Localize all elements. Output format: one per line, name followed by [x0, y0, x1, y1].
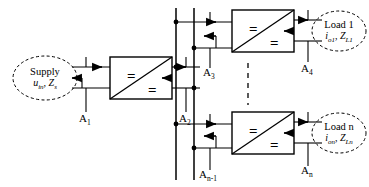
- supply-title: Supply: [30, 66, 60, 78]
- load-1-params: io1, ZL1: [325, 30, 353, 45]
- converter-load-1-eq-top: =: [249, 22, 258, 37]
- load-n-label: Load n ion, ZLn: [313, 122, 365, 146]
- converter-load-n-eq-bottom: =: [270, 138, 279, 153]
- converter-input-eq-bottom: =: [148, 83, 157, 98]
- load-n-params: ion, ZLn: [325, 132, 353, 147]
- port-label-an: An: [301, 164, 313, 179]
- bus-node: [174, 65, 179, 70]
- diagram-canvas: = = = = = = Supply uin, Zs Load 1 io1, Z…: [0, 0, 369, 187]
- converter-input-eq-top: =: [127, 69, 136, 84]
- supply-label: Supply uin, Zs: [15, 66, 75, 92]
- load-1-label: Load 1 io1, ZL1: [313, 20, 365, 44]
- port-label-a3: A3: [203, 66, 215, 81]
- port-label-a2: A2: [179, 112, 191, 127]
- port-label-a4: A4: [301, 62, 313, 77]
- load-1-title: Load 1: [324, 19, 353, 31]
- converter-load-1-eq-bottom: =: [270, 36, 279, 51]
- supply-params: uin, Zs: [33, 77, 57, 92]
- load-n-title: Load n: [324, 121, 353, 133]
- bus-node: [192, 86, 197, 91]
- port-label-a1: A1: [79, 112, 91, 127]
- converter-load-n-eq-top: =: [249, 124, 258, 139]
- port-label-an-1: An-1: [199, 168, 217, 183]
